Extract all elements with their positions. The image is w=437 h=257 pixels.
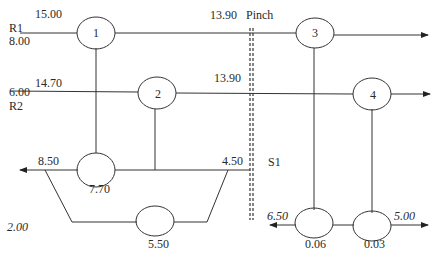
r2-target-temp: 6.00 — [9, 86, 30, 98]
s1-right-temp: 4.50 — [222, 155, 243, 167]
r2-label: R2 — [9, 100, 23, 112]
bottom-right-value: 5.00 — [394, 210, 415, 222]
bottom-node-a-value: 0.06 — [305, 238, 326, 250]
r1-supply-temp: 15.00 — [35, 8, 62, 20]
heat-exchanger-network-diagram: 1 2 3 4 15.00 R1 8.00 13.90 Pinch 14.70 … — [0, 0, 437, 257]
node-4-label: 4 — [370, 89, 376, 101]
pinch-label: Pinch — [246, 9, 273, 21]
r1-target-temp: 8.00 — [9, 35, 30, 47]
bypass-right — [174, 170, 228, 222]
bypass-temp: 5.50 — [148, 238, 169, 250]
bottom-left-value: 6.50 — [267, 210, 288, 222]
bypass-node — [136, 206, 174, 236]
bypass-left — [45, 170, 137, 222]
stream-r2-line-mid — [176, 93, 353, 94]
s1-label: S1 — [268, 156, 281, 168]
r1-label: R1 — [9, 22, 23, 34]
r2-pinch-temp: 13.90 — [214, 72, 241, 84]
r1-pinch-temp: 13.90 — [210, 9, 237, 21]
s1-left-temp: 8.50 — [38, 155, 59, 167]
bypass-value: 2.00 — [7, 221, 28, 233]
r2-supply-temp: 14.70 — [35, 77, 62, 89]
s1-cooler-temp: 7.70 — [89, 183, 110, 195]
node-3-label: 3 — [312, 27, 318, 39]
bottom-node-b-value: 0.03 — [364, 238, 385, 250]
bottom-node-a — [295, 208, 333, 238]
node-2-label: 2 — [155, 88, 161, 100]
network-lines — [0, 0, 437, 257]
pinch-line — [250, 28, 253, 220]
node-1-label: 1 — [93, 27, 99, 39]
